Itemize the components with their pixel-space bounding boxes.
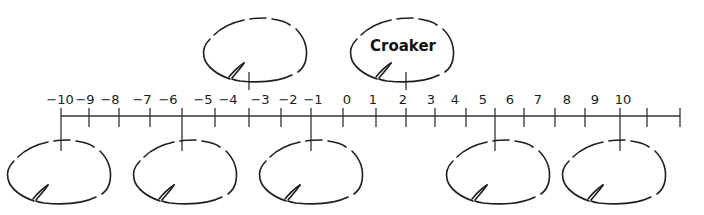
lily-pad	[130, 137, 242, 205]
number-label: −3	[250, 92, 269, 108]
lily-pad-icon	[4, 137, 116, 205]
lily-pad	[256, 137, 368, 205]
lily-pad-croaker: Croaker	[347, 15, 459, 83]
lily-pad-icon	[443, 137, 555, 205]
number-line-diagram: −10−9−8−7−6−5−4−3−2−1012345678910	[0, 0, 704, 215]
number-label: −10	[46, 92, 73, 108]
lily-pad	[443, 137, 555, 205]
number-label: 8	[563, 92, 571, 108]
number-label: −2	[278, 92, 297, 108]
lily-pad-label: Croaker	[347, 37, 459, 55]
number-label: −4	[218, 92, 237, 108]
number-label: −7	[132, 92, 151, 108]
number-label: 7	[534, 92, 542, 108]
number-label: 9	[591, 92, 599, 108]
lily-pad-icon	[200, 15, 312, 83]
number-label: −5	[193, 92, 212, 108]
number-label: 6	[506, 92, 514, 108]
number-label: 10	[615, 92, 632, 108]
number-label: 4	[451, 92, 459, 108]
number-label: 1	[369, 92, 377, 108]
lily-pad	[559, 137, 671, 205]
number-label: −6	[158, 92, 177, 108]
number-label: 5	[479, 92, 487, 108]
lily-pad-icon	[256, 137, 368, 205]
number-label: −8	[100, 92, 119, 108]
number-label: −9	[75, 92, 94, 108]
number-label: −1	[303, 92, 322, 108]
number-label: 2	[399, 92, 407, 108]
lily-pad	[200, 15, 312, 83]
number-label: 3	[427, 92, 435, 108]
number-label: 0	[343, 92, 351, 108]
lily-pad-icon	[130, 137, 242, 205]
lily-pad	[4, 137, 116, 205]
lily-pad-icon	[559, 137, 671, 205]
